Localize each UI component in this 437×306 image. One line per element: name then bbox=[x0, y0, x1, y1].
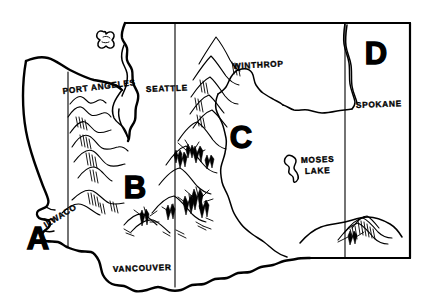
columbia-river-grand-coulee bbox=[283, 105, 352, 113]
map-drawing: A B C D PORT ANGELES SEATTLE WINTHROP SP… bbox=[0, 0, 437, 306]
region-letter-d: D bbox=[365, 36, 387, 71]
region-letter-b: B bbox=[124, 170, 146, 205]
columbia-river-border bbox=[67, 247, 310, 291]
olympic-peak-1 bbox=[70, 96, 106, 104]
washington-map-figure: A B C D PORT ANGELES SEATTLE WINTHROP SP… bbox=[0, 0, 437, 306]
south-cascades-hatching bbox=[124, 218, 213, 238]
san-juan-island-detail bbox=[102, 36, 110, 42]
city-label-moses-lake-line2: LAKE bbox=[305, 165, 331, 176]
city-label-winthrop: WINTHROP bbox=[233, 58, 284, 71]
city-label-moses-lake-line1: MOSES bbox=[301, 154, 335, 165]
interior-basin-edge bbox=[216, 94, 287, 257]
blue-mountains-group bbox=[300, 216, 402, 245]
north-cascades-group bbox=[190, 37, 240, 128]
region-letter-c: C bbox=[230, 120, 252, 155]
conifer-cluster-1 bbox=[186, 144, 194, 158]
conifer-cluster-6 bbox=[199, 200, 209, 218]
moses-lake-group bbox=[285, 155, 299, 182]
hood-canal bbox=[113, 90, 129, 138]
cascade-forest-marks bbox=[140, 144, 214, 226]
city-label-spokane: SPOKANE bbox=[356, 98, 402, 110]
conifer-cluster-10 bbox=[205, 155, 214, 169]
conifer-cluster-8 bbox=[140, 209, 149, 226]
city-label-vancouver: VANCOUVER bbox=[113, 262, 172, 274]
region-letters-group: A B C D bbox=[27, 36, 387, 256]
olympic-peak-2 bbox=[68, 107, 111, 117]
moses-lake-outline bbox=[285, 155, 299, 182]
san-juan-islands bbox=[97, 31, 114, 48]
conifer-cluster-5 bbox=[183, 195, 194, 215]
cascade-south-peak-4 bbox=[152, 196, 206, 222]
cascade-south-peak-1 bbox=[178, 122, 226, 149]
olympic-peak-3 bbox=[70, 122, 111, 133]
olympic-peak-5 bbox=[74, 150, 125, 166]
lower-puget-sound bbox=[119, 109, 128, 138]
olympic-peak-6 bbox=[78, 167, 112, 181]
blue-mountain-forest bbox=[348, 231, 357, 245]
city-label-seattle: SEATTLE bbox=[146, 83, 188, 94]
